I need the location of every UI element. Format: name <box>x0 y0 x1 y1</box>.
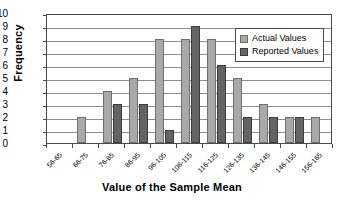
x-axis-tick <box>228 144 229 148</box>
y-axis-tick-label: 9 <box>0 22 8 32</box>
bar <box>77 117 86 143</box>
y-axis-tick-label: 3 <box>0 100 8 110</box>
x-axis-tick <box>150 144 151 148</box>
x-axis-tick <box>332 144 333 148</box>
y-axis-tick-label: 2 <box>0 113 8 123</box>
x-axis-tick <box>176 144 177 148</box>
x-axis-tick <box>98 144 99 148</box>
bar <box>129 78 138 143</box>
legend-swatch-icon <box>240 35 248 43</box>
bar-group <box>151 15 177 143</box>
bar-group <box>177 15 203 143</box>
x-axis-tick-label: 56-65 <box>14 151 63 200</box>
x-axis-tick-label: 116-125 <box>170 151 219 200</box>
legend: Actual ValuesReported Values <box>235 28 324 62</box>
y-axis-tick-label: 0 <box>0 139 8 149</box>
y-axis-tick-label: 1 <box>0 126 8 136</box>
y-axis-tick-label: 7 <box>0 48 8 58</box>
legend-item: Actual Values <box>240 32 318 45</box>
bar <box>295 117 304 143</box>
x-axis-tick <box>306 144 307 148</box>
bar-group <box>99 15 125 143</box>
y-axis-tick-label: 10 <box>0 9 8 19</box>
x-axis-tick-label: 66-75 <box>40 151 89 200</box>
bar-group <box>47 15 73 143</box>
bar <box>155 39 164 143</box>
y-axis-tick-label: 5 <box>0 74 8 84</box>
x-axis-tick-label: 136-145 <box>222 151 271 200</box>
x-axis-tick-label: 106-115 <box>144 151 193 200</box>
legend-label: Actual Values <box>252 34 306 43</box>
chart-figure: Frequency 012345678910 56-6566-7576-8586… <box>0 0 344 203</box>
y-axis-tick-label: 6 <box>0 61 8 71</box>
bar <box>285 117 294 143</box>
bar <box>217 65 226 143</box>
x-axis-tick-label: 126-135 <box>196 151 245 200</box>
bar <box>139 104 148 143</box>
bar-group <box>125 15 151 143</box>
bar-group <box>73 15 99 143</box>
legend-label: Reported Values <box>252 47 318 56</box>
y-axis-tick-label: 8 <box>0 35 8 45</box>
bar <box>269 117 278 143</box>
y-axis-tick-label: 4 <box>0 87 8 97</box>
x-axis-tick <box>280 144 281 148</box>
bar <box>259 104 268 143</box>
x-axis-tick-label: 146-155 <box>248 151 297 200</box>
bar <box>233 78 242 143</box>
y-axis-title: Frequency <box>11 8 25 98</box>
x-axis-tick-label: 156-165 <box>274 151 323 200</box>
x-axis-tick <box>46 144 47 148</box>
legend-swatch-icon <box>240 48 248 56</box>
x-axis-tick-label: 96-105 <box>118 151 167 200</box>
x-axis-tick-label: 76-85 <box>66 151 115 200</box>
x-axis-tick-label: 86-95 <box>92 151 141 200</box>
bar <box>243 117 252 143</box>
x-axis-title: Value of the Sample Mean <box>0 181 344 193</box>
bar <box>207 39 216 143</box>
x-axis-tick <box>72 144 73 148</box>
bar <box>103 91 112 143</box>
bar <box>181 39 190 143</box>
bar <box>191 26 200 143</box>
x-axis-tick <box>124 144 125 148</box>
x-axis-tick <box>254 144 255 148</box>
bar-group <box>203 15 229 143</box>
bar <box>311 117 320 143</box>
bar <box>113 104 122 143</box>
x-axis-tick <box>202 144 203 148</box>
bar <box>165 130 174 143</box>
legend-item: Reported Values <box>240 45 318 58</box>
